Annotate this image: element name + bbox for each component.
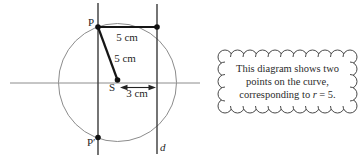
arrow-head-right-icon [149, 85, 157, 90]
callout-line-3-suffix: = 5. [319, 89, 335, 100]
point-p-dot [95, 24, 101, 30]
label-distance-p-to-s: 5 cm [114, 52, 136, 64]
conic-focus-directrix-diagram: P P′ S d 5 cm 5 cm 3 cm [0, 0, 364, 164]
callout-cloud: This diagram shows two points on the cur… [218, 50, 357, 113]
label-distance-s-to-directrix: 3 cm [126, 87, 148, 99]
callout-line-3-prefix: corresponding to [239, 89, 310, 100]
label-directrix-d: d [160, 141, 166, 153]
focus-s-dot [115, 77, 121, 83]
label-focus-s: S [109, 81, 115, 93]
callout-line-2: points on the curve, [246, 76, 329, 87]
callout-line-3: corresponding tor= 5. [239, 89, 335, 100]
label-point-p-prime: P′ [87, 136, 96, 148]
point-p-prime-dot [95, 135, 101, 141]
callout-line-1: This diagram shows two [236, 63, 339, 74]
directrix-foot-dot [154, 24, 160, 30]
figure-canvas: P P′ S d 5 cm 5 cm 3 cm [0, 0, 364, 164]
label-distance-p-to-directrix: 5 cm [116, 31, 138, 43]
label-point-p: P [88, 16, 94, 28]
